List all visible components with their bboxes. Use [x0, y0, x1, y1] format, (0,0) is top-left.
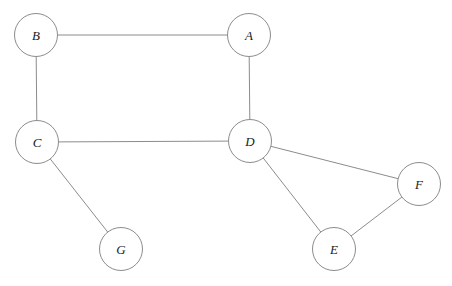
- graph-edge-c-g[interactable]: [50, 159, 107, 232]
- graph-edge-a-d[interactable]: [249, 57, 250, 120]
- graph-node-d[interactable]: D: [229, 120, 272, 163]
- graph-edge-d-f[interactable]: [271, 146, 398, 178]
- graph-node-label-d: D: [244, 134, 255, 149]
- graph-edge-e-f[interactable]: [351, 197, 402, 236]
- graph-node-b[interactable]: B: [15, 14, 58, 57]
- edges-layer: [36, 35, 402, 236]
- graph-diagram-canvas: ABCDEFG: [0, 0, 452, 286]
- graph-node-f[interactable]: F: [398, 163, 441, 206]
- graph-node-e[interactable]: E: [313, 228, 356, 271]
- graph-node-label-c: C: [33, 135, 42, 150]
- graph-node-label-b: B: [32, 28, 40, 43]
- graph-node-label-g: G: [116, 242, 126, 257]
- graph-edge-c-d[interactable]: [59, 141, 229, 142]
- graph-node-g[interactable]: G: [100, 228, 143, 271]
- graph-node-c[interactable]: C: [16, 121, 59, 164]
- graph-node-label-a: A: [244, 28, 253, 43]
- graph-edge-b-c[interactable]: [36, 57, 37, 121]
- graph-node-a[interactable]: A: [228, 14, 271, 57]
- graph-node-label-f: F: [414, 177, 424, 192]
- graph-node-label-e: E: [329, 242, 338, 257]
- graph-svg: ABCDEFG: [0, 0, 452, 286]
- graph-edge-d-e[interactable]: [263, 158, 321, 232]
